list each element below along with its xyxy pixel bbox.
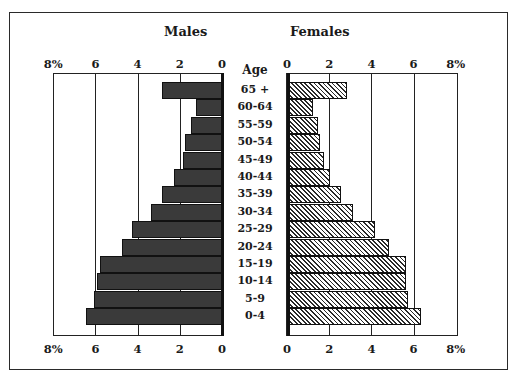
- age-label: 65 +: [223, 81, 287, 98]
- males-title: Males: [164, 24, 207, 39]
- age-label: 10-14: [223, 272, 287, 289]
- female-bar-5-9: [288, 291, 408, 308]
- female-bottom-tick: 4: [367, 342, 375, 356]
- male-bar-5-9: [94, 291, 224, 308]
- male-top-tick: 2: [176, 57, 184, 71]
- male-bar-30-34: [151, 204, 224, 221]
- male-bar-60-64: [196, 99, 224, 116]
- age-label: 15-19: [223, 255, 287, 272]
- male-bar-0-4: [86, 308, 224, 325]
- male-bottom-tick: 0: [218, 342, 226, 356]
- female-bar-50-54: [288, 134, 320, 151]
- female-top-tick: 4: [367, 57, 375, 71]
- female-bar-40-44: [288, 169, 330, 186]
- female-bottom-tick: 6: [410, 342, 418, 356]
- male-bar-50-54: [185, 134, 224, 151]
- age-label: 25-29: [223, 220, 287, 237]
- age-label: 45-49: [223, 151, 287, 168]
- females-title: Females: [290, 24, 350, 39]
- female-bar-55-59: [288, 117, 318, 134]
- female-top-tick: 6: [410, 57, 418, 71]
- female-zero-axis: [287, 73, 290, 336]
- female-bar-65+: [288, 82, 347, 99]
- male-bar-45-49: [183, 152, 224, 169]
- female-bottom-tick: 0: [283, 342, 291, 356]
- female-top-tick: 8%: [446, 57, 465, 71]
- age-label: 20-24: [223, 238, 287, 255]
- male-bottom-tick: 8%: [44, 342, 63, 356]
- age-label: 60-64: [223, 98, 287, 115]
- females-plot-area: [286, 73, 458, 336]
- female-bar-20-24: [288, 239, 389, 256]
- male-bar-55-59: [191, 117, 224, 134]
- male-bar-20-24: [122, 239, 224, 256]
- male-bar-10-14: [97, 273, 224, 290]
- male-bottom-tick: 4: [134, 342, 142, 356]
- male-top-tick: 6: [91, 57, 99, 71]
- male-bottom-tick: 2: [176, 342, 184, 356]
- male-top-tick: 8%: [44, 57, 63, 71]
- male-bar-40-44: [174, 169, 224, 186]
- female-bottom-tick: 8%: [446, 342, 465, 356]
- female-bottom-tick: 2: [325, 342, 333, 356]
- age-label: 30-34: [223, 203, 287, 220]
- female-top-tick: 2: [325, 57, 333, 71]
- female-bar-60-64: [288, 99, 313, 116]
- male-bottom-tick: 6: [91, 342, 99, 356]
- female-bar-35-39: [288, 186, 341, 203]
- female-bar-45-49: [288, 152, 324, 169]
- male-top-tick: 4: [134, 57, 142, 71]
- male-bar-35-39: [162, 186, 224, 203]
- male-bar-65+: [162, 82, 224, 99]
- female-bar-25-29: [288, 221, 375, 238]
- female-bar-10-14: [288, 273, 406, 290]
- female-bar-30-34: [288, 204, 353, 221]
- males-plot-area: [53, 73, 223, 336]
- age-label: 40-44: [223, 168, 287, 185]
- age-label: 55-59: [223, 116, 287, 133]
- age-axis-title: Age: [223, 63, 287, 77]
- female-bar-15-19: [288, 256, 406, 273]
- age-label: 50-54: [223, 133, 287, 150]
- female-bar-0-4: [288, 308, 421, 325]
- age-label: 35-39: [223, 185, 287, 202]
- male-bar-25-29: [132, 221, 224, 238]
- gridline: [414, 74, 415, 335]
- age-label: 0-4: [223, 307, 287, 324]
- male-bar-15-19: [100, 256, 224, 273]
- age-label: 5-9: [223, 290, 287, 307]
